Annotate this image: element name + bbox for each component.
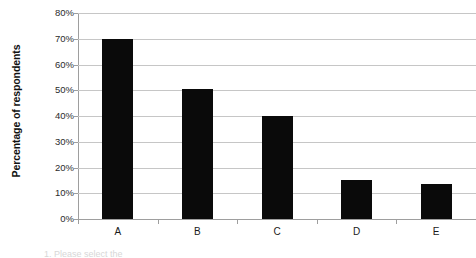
- y-axis-tick-mark: [74, 142, 78, 143]
- gridline: [78, 65, 476, 66]
- bar-b: [182, 89, 213, 219]
- y-axis-tick-mark: [74, 168, 78, 169]
- y-axis-title: Percentage of respondents: [10, 11, 22, 211]
- x-axis-category-label: D: [337, 226, 377, 238]
- bar-d: [341, 180, 372, 219]
- y-axis-tick-mark: [74, 193, 78, 194]
- clipped-caption: 1. Please select the: [44, 249, 123, 258]
- gridline: [78, 13, 476, 14]
- bar-chart-figure: Percentage of respondents 0%10%20%30%40%…: [0, 0, 476, 258]
- x-axis-tick-mark: [158, 220, 159, 224]
- y-axis-tick-label: 70%: [40, 34, 74, 44]
- bar-c: [262, 116, 293, 219]
- y-axis-tick-label: 50%: [40, 85, 74, 95]
- y-axis-tick-label: 0%: [40, 214, 74, 224]
- y-axis-tick-mark: [74, 65, 78, 66]
- plot-area: [78, 13, 476, 219]
- y-axis-tick-mark: [74, 39, 78, 40]
- y-axis-tick-labels: 0%10%20%30%40%50%60%70%80%: [38, 0, 74, 258]
- x-axis-line: [78, 219, 476, 220]
- y-axis-tick-label: 10%: [40, 188, 74, 198]
- x-axis-tick-mark: [317, 220, 318, 224]
- gridline: [78, 90, 476, 91]
- bar-a: [102, 39, 133, 219]
- x-axis-category-label: A: [98, 226, 138, 238]
- x-axis-tick-mark: [396, 220, 397, 224]
- y-axis-tick-mark: [74, 13, 78, 14]
- x-axis-category-label: C: [257, 226, 297, 238]
- bar-e: [421, 184, 452, 219]
- x-axis-tick-mark: [237, 220, 238, 224]
- x-axis-category-label: B: [177, 226, 217, 238]
- y-axis-tick-label: 30%: [40, 137, 74, 147]
- y-axis-tick-mark: [74, 116, 78, 117]
- y-axis-tick-mark: [74, 90, 78, 91]
- y-axis-tick-label: 40%: [40, 111, 74, 121]
- y-axis-tick-label: 20%: [40, 163, 74, 173]
- gridline: [78, 39, 476, 40]
- x-axis-tick-mark: [78, 220, 79, 224]
- y-axis-tick-label: 80%: [40, 8, 74, 18]
- x-axis-category-label: E: [416, 226, 456, 238]
- y-axis-tick-label: 60%: [40, 60, 74, 70]
